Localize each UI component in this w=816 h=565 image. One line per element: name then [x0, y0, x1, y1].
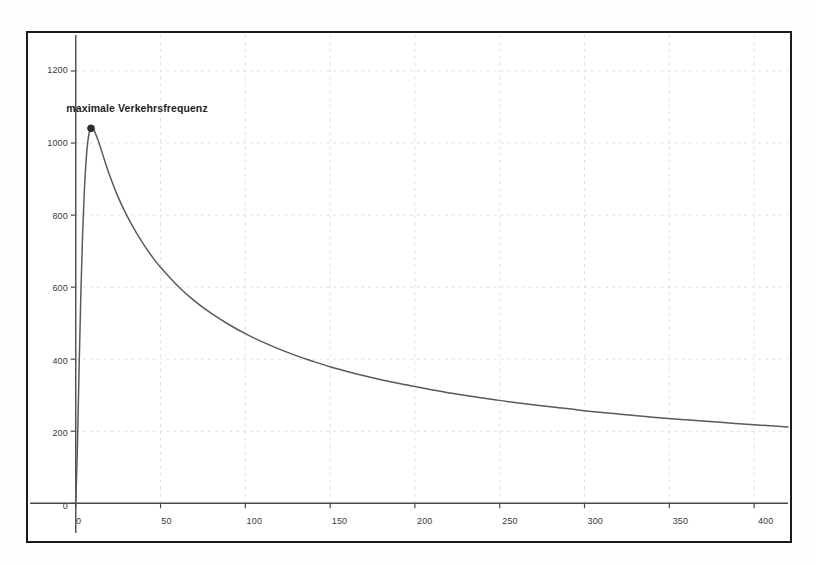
y-axis-tick-label: 400 [34, 356, 68, 366]
x-axis-tick-label: 300 [573, 516, 615, 526]
y-axis-tick-label: 1000 [34, 138, 68, 148]
y-axis-tick-label: 1200 [34, 65, 68, 75]
y-axis-tick-label: 0 [34, 501, 68, 511]
x-axis-tick-label: 150 [318, 516, 360, 526]
x-axis-tick-label: 100 [232, 516, 274, 526]
y-axis-tick-label: 800 [34, 211, 68, 221]
figure-page: maximale Verkehrsfrequenz 02004006008001… [0, 0, 816, 565]
peak-annotation-label: maximale Verkehrsfrequenz [66, 102, 207, 114]
chart-frame: maximale Verkehrsfrequenz 02004006008001… [26, 31, 792, 543]
y-axis-tick-label: 600 [34, 283, 68, 293]
x-axis-tick-label: 200 [403, 516, 445, 526]
y-axis-tick-label: 200 [34, 428, 68, 438]
x-axis-tick-label: 350 [659, 516, 701, 526]
peak-marker [88, 125, 95, 132]
data-curve [76, 128, 788, 503]
x-axis-tick-label: 0 [62, 516, 104, 526]
x-axis-tick-label: 50 [147, 516, 189, 526]
x-axis-tick-label: 250 [488, 516, 530, 526]
x-axis-tick-label: 400 [744, 516, 786, 526]
